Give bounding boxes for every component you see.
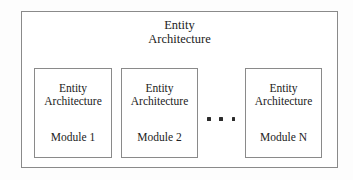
module-1-label: Module 1 [35,131,111,144]
module-n-heading-line-1: Entity [246,82,321,95]
module-box-n: Entity Architecture Module N [245,68,322,158]
module-1-heading-line-2: Architecture [35,95,111,108]
ellipsis-dot-3 [232,117,236,121]
ellipsis-dot-1 [207,117,211,121]
module-n-heading: Entity Architecture [246,82,321,108]
diagram-canvas: Entity Architecture Entity Architecture … [0,0,353,180]
module-2-heading-line-2: Architecture [122,95,197,108]
system-title-line-2: Architecture [21,32,338,46]
module-n-content: Entity Architecture Module N [246,69,321,157]
system-title-line-1: Entity [21,18,338,32]
ellipsis-dot-2 [219,117,223,121]
module-2-label: Module 2 [122,131,197,144]
module-1-heading: Entity Architecture [35,82,111,108]
module-2-heading-line-1: Entity [122,82,197,95]
module-2-content: Entity Architecture Module 2 [122,69,197,157]
module-box-1: Entity Architecture Module 1 [34,68,112,158]
module-2-heading: Entity Architecture [122,82,197,108]
module-n-heading-line-2: Architecture [246,95,321,108]
module-box-2: Entity Architecture Module 2 [121,68,198,158]
ellipsis-icon [205,113,237,125]
system-title: Entity Architecture [21,18,338,46]
module-n-label: Module N [246,131,321,144]
module-1-content: Entity Architecture Module 1 [35,69,111,157]
module-1-heading-line-1: Entity [35,82,111,95]
